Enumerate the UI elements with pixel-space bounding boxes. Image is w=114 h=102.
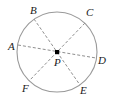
center-point-label-P: P: [53, 56, 61, 68]
vertex-label-E: E: [79, 84, 87, 96]
vertex-label-B: B: [30, 4, 37, 16]
geometry-figure-container: A B C D E F P: [0, 0, 114, 102]
vertex-label-C: C: [86, 6, 94, 18]
vertex-label-A: A: [7, 40, 15, 52]
vertex-label-F: F: [21, 82, 29, 94]
vertex-label-D: D: [97, 54, 106, 66]
circle-diagram-svg: A B C D E F P: [0, 0, 114, 102]
center-point-dot: [55, 50, 59, 54]
